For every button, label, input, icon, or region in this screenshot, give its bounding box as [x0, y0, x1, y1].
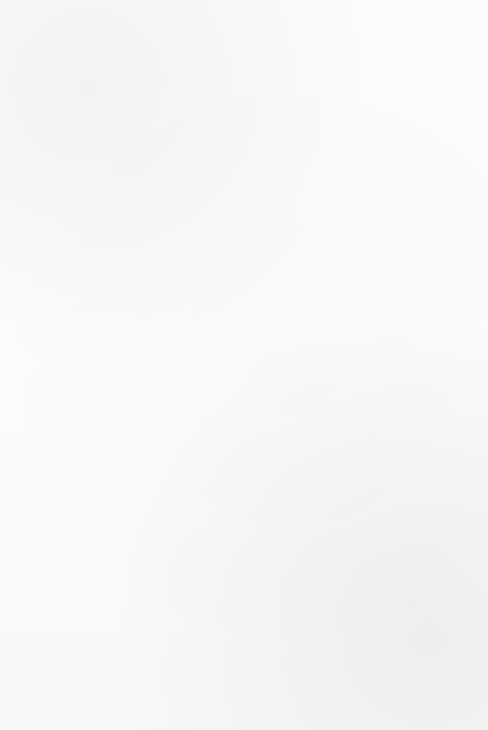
arrow-icon — [126, 140, 156, 152]
bullet-dot-icon — [345, 402, 348, 405]
decision-intended-purpose-label-wrap: What is the intended purpose of the chem… — [63, 529, 95, 632]
decision-intended-purpose-label: What is the intended purpose of the chem… — [63, 529, 95, 632]
bullet-dot-icon — [162, 690, 165, 693]
decision-selection-criteria-label-wrap: What are the criteria for selecting anal… — [240, 316, 272, 423]
bullet-label-sample-type: Type of sample (groundwater,sediment, in… — [182, 107, 203, 236]
bullet-label-selectivity: Selectivity — [366, 349, 376, 398]
list-item: Selectivity — [366, 349, 376, 405]
bullet-label-risk-assessment: Risk Assessment — [171, 619, 181, 686]
decision-selection-criteria: What are the criteria for selecting anal… — [203, 276, 309, 462]
figure-caption: Figure 2. Selection of Analytical Method… — [452, 268, 460, 464]
bullet-label-precision: Precision — [354, 358, 364, 398]
arrow-icon — [206, 178, 272, 280]
bullet-dot-icon — [357, 402, 360, 405]
decision-selection-criteria-label: What are the criteria for selecting anal… — [240, 316, 272, 423]
process-intended-purpose-list: Environmental Compliance/Monitoring Risk… — [146, 459, 207, 701]
bullet-label-environmental-compliance: Environmental Compliance/Monitoring — [185, 530, 195, 686]
decision-available-information-label-wrap: What is the available information concer… — [64, 99, 96, 197]
scanned-figure-page: What is the available information concer… — [0, 0, 488, 730]
decision-intended-purpose: What is the intended purpose of the chem… — [27, 488, 131, 672]
list-item: Precision — [354, 358, 364, 405]
bullet-dot-icon — [175, 690, 178, 693]
bullet-dot-icon — [188, 690, 191, 693]
list-item: Accuracy — [341, 362, 351, 405]
bullet-line: Known or suspected chemical — [161, 115, 171, 235]
bullet-dot-icon — [170, 240, 173, 243]
list-item: Risk Assessment — [171, 619, 181, 693]
intended-purpose-bullet-list: Environmental Compliance/Monitoring Risk… — [147, 460, 206, 700]
arrow-icon — [205, 455, 267, 555]
bullet-dot-icon — [370, 402, 373, 405]
list-item: Environmental Research — [158, 588, 168, 693]
arrow-criteria-decision-to-criteria-box — [306, 363, 338, 375]
arrow-icon — [306, 363, 338, 375]
arrow-sample-box-to-criteria-decision — [206, 178, 272, 280]
selection-criteria-bullet-list: Sensitivity Selectivity Precision Accura… — [338, 278, 392, 412]
process-selection-criteria-list: Sensitivity Selectivity Precision Accura… — [337, 277, 393, 413]
bullet-line: composition of the sample — [171, 115, 181, 235]
arrow-purpose-box-to-criteria-decision — [205, 455, 267, 555]
decision-available-information: What is the available information concer… — [28, 56, 132, 240]
process-sample-information: Type of sample (groundwater,sediment, in… — [152, 31, 211, 251]
decision-available-information-label: What is the available information concer… — [64, 99, 96, 197]
list-item: Sensitivity — [378, 349, 388, 405]
bullet-label-environmental-research: Environmental Research — [158, 588, 168, 686]
terminator-select-analytical-method-label: Select appropriate analytical method(s) — [421, 324, 442, 413]
bullet-line: sediment, interstitial water) — [192, 107, 202, 236]
bullet-dot-icon — [190, 240, 193, 243]
bullet-label-sensitivity: Sensitivity — [378, 349, 388, 398]
terminator-select-analytical-method: Select appropriate analytical method(s) — [415, 277, 448, 460]
list-item: Environmental Compliance/Monitoring — [185, 530, 195, 693]
arrow-available-info-to-sample-box — [126, 140, 156, 152]
sample-information-bullet-list: Type of sample (groundwater,sediment, in… — [153, 32, 210, 250]
bullet-label-accuracy: Accuracy — [341, 362, 351, 398]
bullet-line: Type of sample (groundwater, — [182, 107, 192, 236]
list-item: Known or suspected chemicalcomposition o… — [161, 115, 182, 243]
bullet-dot-icon — [382, 402, 385, 405]
terminator-label-wrap: Select appropriate analytical method(s) — [421, 324, 442, 413]
list-item: Type of sample (groundwater,sediment, in… — [182, 107, 203, 243]
bullet-label-known-composition: Known or suspected chemicalcomposition o… — [161, 115, 182, 235]
